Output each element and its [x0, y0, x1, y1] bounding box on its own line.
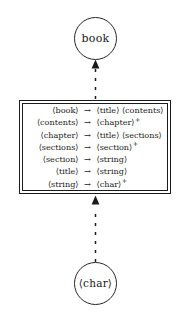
production-rule-row: ⟨section⟩→⟨string⟩	[27, 153, 164, 165]
node-book-label: book	[82, 33, 110, 44]
rule-arrow-icon: →	[79, 141, 97, 153]
production-rules-table: ⟨book⟩→⟨title⟩ ⟨contents⟩⟨contents⟩→⟨cha…	[27, 104, 164, 189]
rule-rhs: ⟨char⟩+	[97, 178, 164, 190]
production-rule-row: ⟨book⟩→⟨title⟩ ⟨contents⟩	[27, 104, 164, 116]
rules-box: ⟨book⟩→⟨title⟩ ⟨contents⟩⟨contents⟩→⟨cha…	[19, 100, 171, 194]
rule-rhs: ⟨section⟩+	[97, 141, 164, 153]
rule-plus-superscript: +	[133, 140, 138, 148]
rule-rhs-text: ⟨string⟩	[97, 166, 128, 176]
rule-rhs: ⟨title⟩ ⟨contents⟩	[97, 104, 164, 116]
production-rule-row: ⟨contents⟩→⟨chapter⟩+	[27, 116, 164, 128]
node-char[interactable]: ⟨char⟩	[74, 262, 117, 305]
production-rule-row: ⟨chapter⟩→⟨title⟩ ⟨sections⟩	[27, 129, 164, 141]
connector-box-to-book	[92, 60, 100, 100]
rule-lhs: ⟨book⟩	[27, 104, 79, 116]
rule-arrow-icon: →	[79, 129, 97, 141]
rule-rhs-text: ⟨title⟩ ⟨sections⟩	[97, 130, 162, 140]
rule-rhs-text: ⟨section⟩	[97, 142, 133, 152]
rule-plus-superscript: +	[122, 177, 127, 185]
rule-lhs: ⟨chapter⟩	[27, 129, 79, 141]
rule-rhs: ⟨string⟩	[97, 153, 164, 165]
rule-plus-superscript: +	[135, 116, 140, 124]
rule-arrow-icon: →	[79, 104, 97, 116]
production-rule-row: ⟨title⟩→⟨string⟩	[27, 165, 164, 177]
rule-arrow-icon: →	[79, 116, 97, 128]
rule-lhs: ⟨contents⟩	[27, 116, 79, 128]
production-rule-row: ⟨sections⟩→⟨section⟩+	[27, 141, 164, 153]
rules-box-inner-border: ⟨book⟩→⟨title⟩ ⟨contents⟩⟨contents⟩→⟨cha…	[22, 103, 169, 192]
rule-lhs: ⟨sections⟩	[27, 141, 79, 153]
rule-rhs-text: ⟨chapter⟩	[97, 117, 135, 127]
node-book[interactable]: book	[74, 17, 117, 60]
rule-rhs: ⟨chapter⟩+	[97, 116, 164, 128]
rule-rhs-text: ⟨string⟩	[97, 154, 128, 164]
rule-arrow-icon: →	[79, 165, 97, 177]
node-char-label: ⟨char⟩	[79, 278, 112, 289]
rule-rhs-text: ⟨char⟩	[97, 179, 122, 189]
rule-lhs: ⟨title⟩	[27, 165, 79, 177]
rule-arrow-icon: →	[79, 178, 97, 190]
rule-arrow-icon: →	[79, 153, 97, 165]
production-rules-body: ⟨book⟩→⟨title⟩ ⟨contents⟩⟨contents⟩→⟨cha…	[27, 104, 164, 189]
rule-rhs: ⟨title⟩ ⟨sections⟩	[97, 129, 164, 141]
rule-lhs: ⟨section⟩	[27, 153, 79, 165]
production-rule-row: ⟨string⟩→⟨char⟩+	[27, 178, 164, 190]
rule-rhs: ⟨string⟩	[97, 165, 164, 177]
connector-char-to-box	[92, 196, 100, 263]
arrowhead-up-box	[92, 196, 100, 205]
arrowhead-up-book	[92, 60, 100, 69]
rule-rhs-text: ⟨title⟩ ⟨contents⟩	[97, 105, 164, 115]
rule-lhs: ⟨string⟩	[27, 178, 79, 190]
